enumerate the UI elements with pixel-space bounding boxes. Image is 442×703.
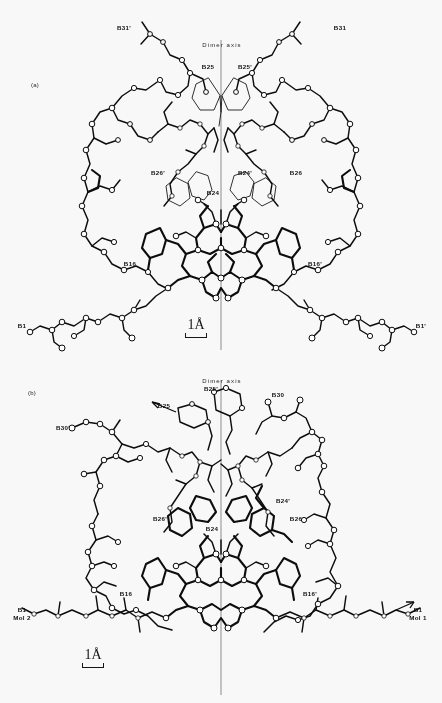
residue-label: B24' [238, 169, 252, 176]
residue-label: B26' [151, 169, 165, 176]
residue-label: B26' [153, 515, 167, 522]
residue-label: B24 [206, 525, 218, 532]
residue-label-line2: Mol 1 [409, 613, 426, 621]
residue-label: B16' [303, 590, 317, 597]
residue-label: B16' [308, 260, 322, 267]
residue-label: B30 [272, 391, 284, 398]
residue-label: B1' [416, 322, 426, 329]
residue-label: B16 [120, 590, 132, 597]
residue-label: B25 [158, 402, 170, 409]
residue-label: B26 [290, 169, 302, 176]
residue-label: B31 [334, 24, 346, 31]
residue-label: B31' [117, 24, 131, 31]
residue-label: B30' [56, 424, 70, 431]
residue-label: B1 [18, 322, 27, 329]
residue-label: B25 [202, 63, 214, 70]
scalebar-b-value: 1Å [82, 648, 104, 662]
scalebar-b-bar [82, 663, 104, 668]
panel-b-molecule [0, 360, 442, 703]
residue-label: B26 [290, 515, 302, 522]
panel-a: (a) Dimer axis [0, 0, 442, 360]
scalebar-a-bar [185, 333, 207, 338]
residue-label: B24' [276, 497, 290, 504]
panel-a-molecule [0, 0, 442, 360]
residue-label: B16 [124, 260, 136, 267]
residue-label-line2: Mol 2 [13, 613, 30, 621]
scalebar-a: 1Å [185, 318, 207, 338]
residue-label: B1Mol 1 [409, 606, 426, 621]
residue-label: B25' [204, 385, 218, 392]
residue-label: B1Mol 2 [13, 606, 30, 621]
panel-b: (b) Dimer axis [0, 360, 442, 703]
residue-label: B25' [238, 63, 252, 70]
scalebar-b: 1Å [82, 648, 104, 668]
scalebar-a-value: 1Å [185, 318, 207, 332]
residue-label-line1: B1 [13, 606, 30, 614]
residue-label-line1: B1 [409, 606, 426, 614]
residue-label: B24 [207, 189, 219, 196]
insulin-dimer-figure: (a) Dimer axis [0, 0, 442, 703]
